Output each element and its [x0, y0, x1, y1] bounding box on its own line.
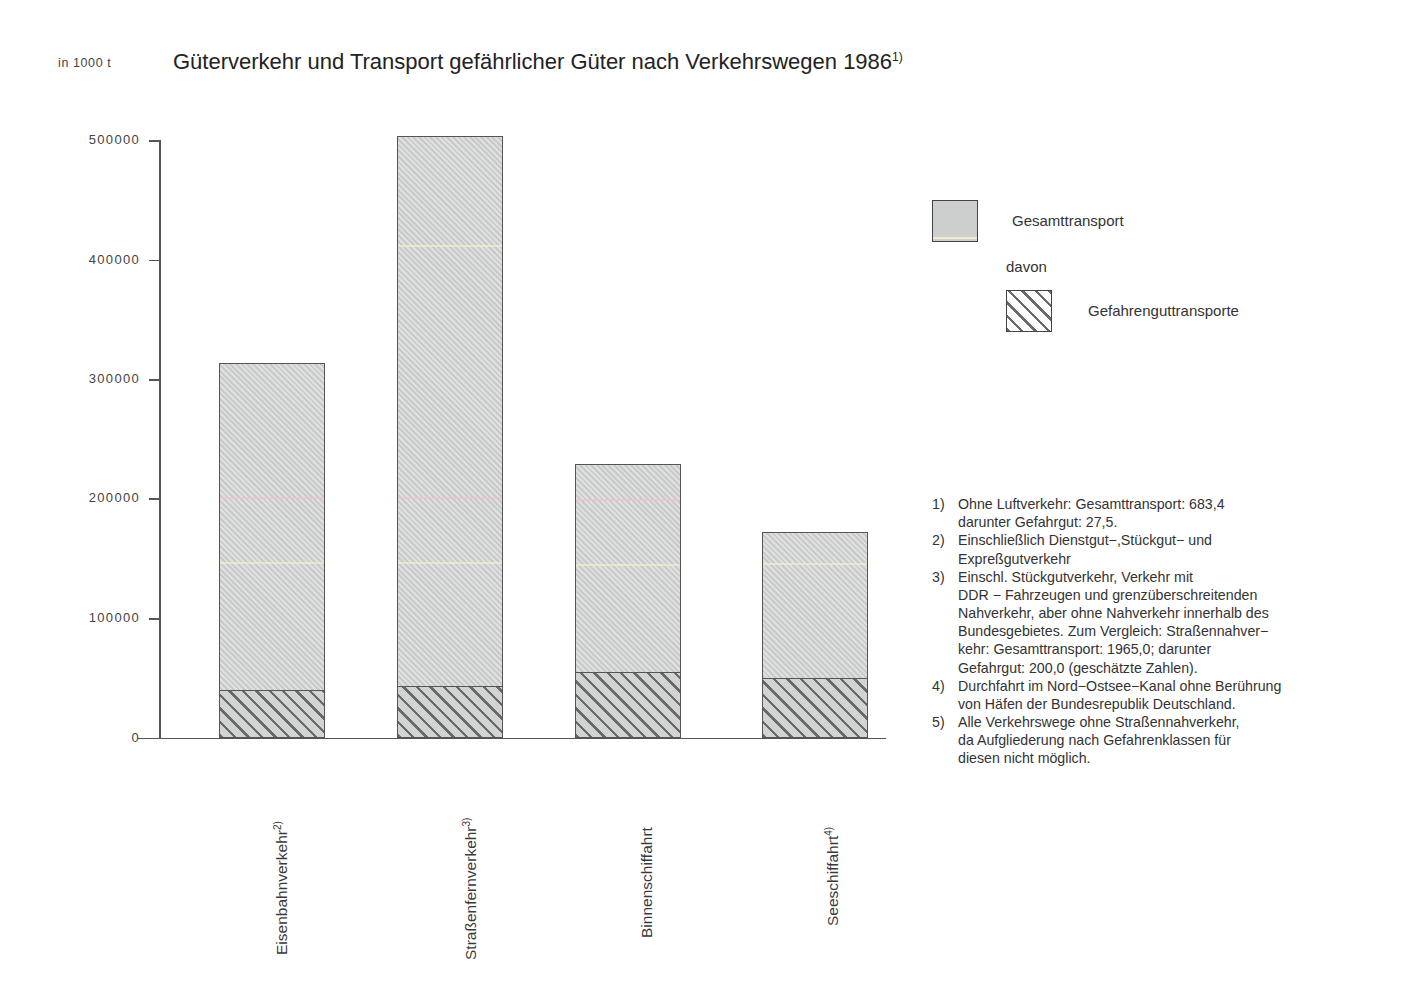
guide-line-200000-bar3: [576, 499, 680, 501]
guide-line-200000-bar1: [220, 497, 324, 499]
x-label-eisenbahnverkehr: Eisenbahnverkehr2): [272, 821, 291, 955]
legend-label-gesamttransport: Gesamttransport: [1012, 212, 1124, 229]
legend-swatch-total-icon: [932, 200, 978, 242]
legend-item-gefahrenguttransporte: Gefahrenguttransporte: [932, 286, 1352, 338]
legend-swatch-hazard-icon: [1006, 290, 1052, 332]
footnote-3-text: Einschl. Stückgutverkehr, Verkehr mit DD…: [958, 568, 1362, 677]
x-label-binnenschiffahrt: Binnenschiffahrt: [637, 827, 656, 938]
y-axis-line: [159, 140, 161, 739]
x-label-seeschiffahrt-text: Seeschiffahrt: [824, 836, 841, 926]
y-tick-label-300000: 300000: [20, 371, 140, 386]
y-tick-0: [149, 738, 159, 740]
y-tick-300000: [149, 379, 159, 381]
footnotes-block: 1) Ohne Luftverkehr: Gesamttransport: 68…: [932, 495, 1362, 768]
footnote-3-number: 3): [932, 568, 958, 677]
legend-item-gesamttransport: Gesamttransport: [932, 200, 1352, 258]
x-label-binnenschiffahrt-text: Binnenschiffahrt: [638, 827, 655, 938]
y-tick-label-400000: 400000: [20, 252, 140, 267]
bar-hazard-eisenbahnverkehr: [219, 690, 325, 738]
y-tick-label-200000: 200000: [20, 490, 140, 505]
legend-swatch-guide-line: [933, 237, 977, 239]
y-tick-label-500000: 500000: [20, 132, 140, 147]
y-tick-100000: [149, 618, 159, 620]
guide-line-200000-bar2: [398, 497, 502, 499]
guide-line-148000-bar1: [220, 562, 324, 564]
x-label-strassenfernverkehr-footnote: 3): [461, 818, 472, 827]
y-tick-500000: [149, 140, 159, 142]
guide-line-148000-bar4: [763, 563, 867, 565]
x-label-seeschiffahrt-footnote: 4): [823, 827, 834, 836]
footnote-2-number: 2): [932, 531, 958, 567]
footnote-4-number: 4): [932, 677, 958, 713]
x-label-eisenbahnverkehr-footnote: 2): [272, 821, 283, 830]
footnote-3: 3) Einschl. Stückgutverkehr, Verkehr mit…: [932, 568, 1362, 677]
x-label-strassenfernverkehr: Straßenfernverkehr3): [461, 818, 480, 960]
x-label-eisenbahnverkehr-text: Eisenbahnverkehr: [273, 830, 290, 955]
bar-hazard-strassenfernverkehr: [397, 686, 503, 737]
bar-hazard-seeschiffahrt: [762, 678, 868, 738]
footnote-1: 1) Ohne Luftverkehr: Gesamttransport: 68…: [932, 495, 1362, 531]
y-tick-label-0: 0: [20, 730, 140, 745]
x-label-strassenfernverkehr-text: Straßenfernverkehr: [462, 826, 479, 960]
footnote-4: 4) Durchfahrt im Nord−Ostsee−Kanal ohne …: [932, 677, 1362, 713]
footnote-2-text: Einschließlich Dienstgut−,Stückgut− und …: [958, 531, 1362, 567]
bar-total-eisenbahnverkehr: [219, 363, 325, 738]
chart-plot-area: 500000 400000 300000 200000 100000 0 Eis…: [0, 0, 900, 1004]
footnote-5: 5) Alle Verkehrswege ohne Straßennahverk…: [932, 713, 1362, 768]
footnote-2: 2) Einschließlich Dienstgut−,Stückgut− u…: [932, 531, 1362, 567]
footnote-5-text: Alle Verkehrswege ohne Straßennahverkehr…: [958, 713, 1362, 768]
guide-line-414000-bar2: [398, 245, 502, 247]
bar-total-strassenfernverkehr: [397, 136, 503, 738]
legend-label-davon: davon: [1006, 258, 1047, 275]
x-axis-line: [138, 738, 886, 740]
bar-hazard-binnenschiffahrt: [575, 672, 681, 738]
y-tick-label-100000: 100000: [20, 610, 140, 625]
guide-line-148000-bar3: [576, 564, 680, 566]
footnote-5-number: 5): [932, 713, 958, 768]
y-tick-400000: [149, 260, 159, 262]
footnote-4-text: Durchfahrt im Nord−Ostsee−Kanal ohne Ber…: [958, 677, 1362, 713]
guide-line-148000-bar2: [398, 562, 502, 564]
y-tick-200000: [149, 498, 159, 500]
footnote-1-number: 1): [932, 495, 958, 531]
footnote-1-text: Ohne Luftverkehr: Gesamttransport: 683,4…: [958, 495, 1362, 531]
legend-label-gefahrenguttransporte: Gefahrenguttransporte: [1088, 302, 1239, 319]
x-label-seeschiffahrt: Seeschiffahrt4): [823, 827, 842, 926]
legend-davon-note: davon: [932, 258, 1352, 286]
chart-legend: Gesamttransport davon Gefahrenguttranspo…: [932, 200, 1352, 338]
